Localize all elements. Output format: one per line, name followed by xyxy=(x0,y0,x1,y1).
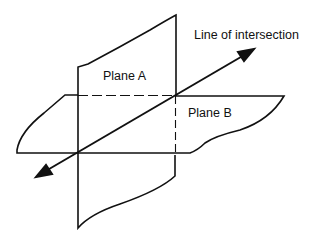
plane-b-label: Plane B xyxy=(188,106,232,120)
line-of-intersection-label: Line of intersection xyxy=(194,28,299,42)
plane-a-label: Plane A xyxy=(103,69,147,83)
plane-b xyxy=(17,95,284,153)
arrow-head-down-left-icon xyxy=(36,165,52,177)
arrow-head-up-right-icon xyxy=(238,49,254,61)
intersecting-planes-diagram: Plane A Plane B Line of intersection xyxy=(0,0,318,236)
plane-a xyxy=(78,15,176,228)
